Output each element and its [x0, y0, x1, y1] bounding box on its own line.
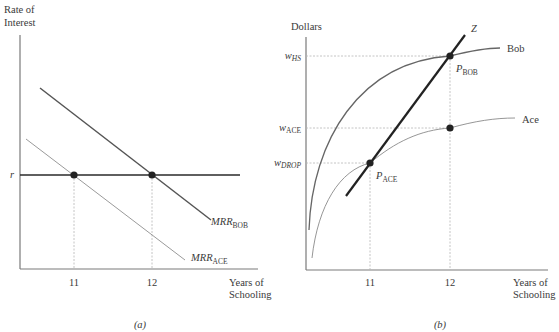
- x-tick-11: 11: [365, 277, 375, 288]
- x-tick-11: 11: [69, 277, 79, 288]
- mrr-ace-label: MRRACE: [190, 252, 228, 266]
- point-p-bob: [446, 52, 453, 59]
- point-p-ace: [366, 159, 373, 166]
- p-ace-label: PACE: [375, 170, 398, 184]
- bob-label: Bob: [507, 43, 525, 54]
- x-axis-label-line2: Schooling: [229, 289, 272, 300]
- caption-a: (a): [134, 319, 147, 331]
- equilibrium-point-bob: [148, 171, 155, 178]
- panel-b: Dollars wHS wACE wDROP Z Bob Ace PBOB PA…: [274, 21, 556, 331]
- ace-earnings-curve: [312, 118, 515, 258]
- x-axis-label-line2: Schooling: [513, 289, 556, 300]
- x-tick-12: 12: [445, 277, 456, 288]
- z-label: Z: [471, 23, 477, 34]
- y-tick-w-ace: wACE: [279, 122, 301, 135]
- figure: Rate of Interest r MRRBOB MRRACE 11 12 Y…: [0, 0, 559, 332]
- y-axis-label: Dollars: [291, 21, 322, 32]
- x-tick-12: 12: [147, 277, 158, 288]
- panel-a: Rate of Interest r MRRBOB MRRACE 11 12 Y…: [4, 4, 272, 331]
- z-line: [346, 35, 465, 196]
- y-tick-w-hs: wHS: [285, 50, 301, 63]
- mrr-bob-line: [40, 88, 211, 220]
- equilibrium-point-ace: [70, 171, 77, 178]
- x-axis-label-line1: Years of: [513, 277, 548, 288]
- y-axis-label-line2: Interest: [4, 17, 36, 28]
- mrr-ace-line: [26, 139, 185, 260]
- ace-label: Ace: [522, 114, 539, 125]
- caption-b: (b): [434, 319, 447, 331]
- y-axis-label-line1: Rate of: [4, 4, 35, 15]
- x-axis-label-line1: Years of: [229, 277, 264, 288]
- r-label: r: [10, 169, 15, 180]
- y-tick-w-drop: wDROP: [274, 157, 301, 170]
- p-bob-label: PBOB: [455, 63, 478, 77]
- point-ace-12: [446, 124, 453, 131]
- mrr-bob-label: MRRBOB: [210, 216, 248, 230]
